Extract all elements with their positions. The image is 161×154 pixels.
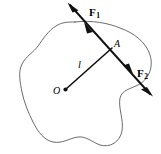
rigid-body-outline (20, 21, 152, 145)
force-2-subscript: 2 (144, 72, 148, 81)
lever-arm-line (66, 48, 112, 89)
lever-arm-label: l (78, 60, 81, 71)
force-2-mid-arrowhead (123, 64, 133, 75)
line-of-action (70, 5, 150, 94)
force-1-symbol: F (89, 6, 96, 18)
point-o-dot (63, 87, 67, 91)
point-a-label: A (114, 39, 120, 49)
force-2-label: F2 (137, 68, 147, 79)
force-2-symbol: F (137, 67, 144, 79)
force-1-arrowhead (68, 3, 79, 13)
force-1-label: F1 (89, 7, 99, 18)
force-2-arrowhead (141, 87, 153, 97)
force-1-subscript: 1 (96, 11, 100, 20)
figure-canvas: F1 F2 A l O (0, 0, 161, 154)
point-o-label: O (53, 86, 60, 96)
